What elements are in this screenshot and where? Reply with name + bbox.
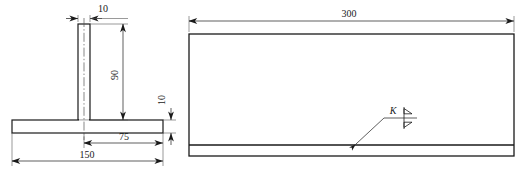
dim-label-flange-width: 150 [80,149,95,160]
dim-label-flange-half-width: 75 [119,131,129,142]
drawing-sheet: 10 90 10 [0,0,525,176]
cross-section-view: 10 90 10 [12,3,176,166]
engineering-drawing-canvas: 10 90 10 [0,0,525,176]
elevation-body-rectangle [189,34,514,156]
dimension-overall-length: 300 [189,8,514,32]
flange-rectangle [12,120,163,133]
dim-label-overall-length: 300 [342,8,357,19]
weld-symbol-label: K [389,105,398,116]
dim-label-web-thickness: 10 [98,3,108,14]
dimension-web-thickness: 10 [66,3,128,22]
flange-outline [12,120,163,133]
elevation-view: 300 K [189,8,514,156]
dimension-web-height: 90 [90,24,128,120]
dimension-flange-width: 150 [12,133,163,166]
dim-label-web-height: 90 [109,70,120,80]
dim-label-flange-thickness: 10 [156,95,167,105]
